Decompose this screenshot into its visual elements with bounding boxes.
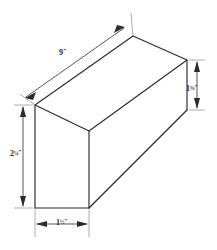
left-height-unit: ″ [18, 148, 22, 156]
block-solid [35, 36, 187, 208]
left-height-arrowhead-top [20, 106, 26, 117]
right-height-arrowhead-top [194, 61, 200, 72]
right-height-dimension-label: 1⅝″ [186, 84, 198, 93]
bottom-width-arrowhead-left [36, 221, 47, 227]
length-unit: ″ [63, 47, 67, 55]
right-height-arrowhead-bottom [194, 98, 200, 109]
left-height-arrowhead-bottom [20, 196, 26, 207]
block-diagram-svg [0, 0, 217, 250]
bottom-width-unit: ″ [64, 217, 68, 225]
bottom-width-dimension-label: 1½″ [56, 218, 68, 227]
bottom-width-arrowhead-right [77, 221, 88, 227]
technical-drawing-canvas: 9″ 1⅝″ 2¼″ 1½″ [0, 0, 217, 250]
length-extension-line-far [131, 13, 133, 36]
length-dimension-label: 9″ [59, 48, 66, 57]
length-arrowhead-end [114, 25, 125, 33]
right-height-unit: ″ [194, 83, 198, 91]
left-height-dimension-label: 2¼″ [10, 149, 22, 158]
